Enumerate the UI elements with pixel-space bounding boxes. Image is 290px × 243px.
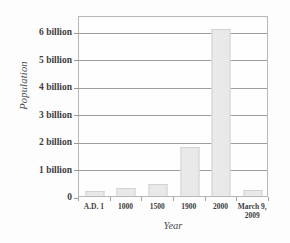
bar-series: [79, 17, 267, 196]
plot-area: [78, 16, 268, 197]
x-tick-mark: [110, 197, 111, 201]
x-tick-label: 1000: [110, 202, 142, 211]
y-axis-tick-labels: 01 billion2 billion3 billion4 billion5 b…: [10, 16, 72, 197]
x-tick-mark: [205, 197, 206, 201]
bar-slot: [111, 17, 143, 196]
x-tick-mark: [173, 197, 174, 201]
x-tick-mark: [236, 197, 237, 201]
bar: [180, 147, 199, 196]
x-tick-label: 1500: [141, 202, 173, 211]
x-tick-mark: [78, 197, 79, 201]
bar-slot: [79, 17, 111, 196]
x-tick-label: 1900: [173, 202, 205, 211]
x-tick-label: A.D. 1: [78, 202, 110, 211]
x-tick-label: 2000: [205, 202, 237, 211]
x-tick-label: March 9,2009: [236, 202, 268, 220]
y-tick-label: 1 billion: [10, 165, 72, 175]
chart-figure: Population 01 billion2 billion3 billion4…: [0, 0, 290, 243]
y-tick-label: 4 billion: [10, 82, 72, 92]
y-tick-label: 6 billion: [10, 27, 72, 37]
y-tick-label: 0: [10, 192, 72, 202]
x-axis-title: Year: [78, 220, 268, 231]
x-tick-mark: [268, 197, 269, 201]
bar: [244, 190, 263, 196]
y-tick-label: 2 billion: [10, 137, 72, 147]
bar: [85, 191, 104, 196]
bar-slot: [142, 17, 174, 196]
y-tick-label: 5 billion: [10, 55, 72, 65]
bar-slot: [237, 17, 269, 196]
x-tick-mark: [141, 197, 142, 201]
y-tick-label: 3 billion: [10, 110, 72, 120]
bar: [117, 188, 136, 197]
bar: [149, 184, 168, 196]
bar-slot: [174, 17, 206, 196]
bar: [212, 29, 231, 196]
bar-slot: [206, 17, 238, 196]
